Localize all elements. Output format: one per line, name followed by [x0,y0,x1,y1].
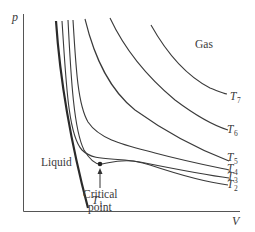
svg-text:4: 4 [234,168,238,177]
gas-label: Gas [195,38,213,50]
label-t6: T 6 [227,123,238,138]
svg-text:1: 1 [99,200,103,209]
svg-text:7: 7 [237,96,241,105]
y-axis-label: p [11,10,18,24]
liquid-label: Liquid [41,156,72,169]
svg-text:5: 5 [234,157,238,166]
critical-label-line1: Critical [83,188,118,200]
x-axis-label: V [232,214,241,228]
critical-point-dot [98,162,103,167]
svg-text:2: 2 [234,184,238,193]
label-t7: T 7 [230,90,241,105]
svg-text:3: 3 [234,176,238,185]
svg-text:6: 6 [234,129,238,138]
isotherm-t1 [56,21,88,208]
isotherm-t6 [110,18,228,130]
arrow-head-icon [98,168,103,174]
pv-diagram: p V Gas Liquid Critical point T 1 T 2 T … [0,0,255,232]
isotherm-t7 [151,25,227,94]
